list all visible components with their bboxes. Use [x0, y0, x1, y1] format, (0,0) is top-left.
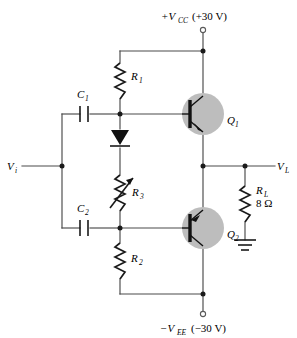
junction-q2-base-node: [118, 226, 123, 231]
vcc-terminal-node: [200, 27, 205, 32]
r3-symbol: R: [131, 186, 139, 198]
schematic-canvas: +V CC (+30 V) −V EE (−30 V) V i V L R 1 …: [0, 0, 297, 338]
r2-symbol: R: [130, 252, 138, 264]
junction-vcc-rail: [201, 49, 206, 54]
resistor-r2: [115, 243, 125, 279]
wiring-layer: [22, 32, 275, 312]
label-layer: +V CC (+30 V) −V EE (−30 V) V i V L R 1 …: [7, 10, 289, 337]
q1-symbol: Q: [227, 114, 235, 126]
q2-symbol: Q: [227, 228, 235, 240]
r2-zigzag: [115, 243, 125, 279]
vcc-subscript: CC: [178, 16, 189, 25]
c2-subscript: 2: [85, 208, 89, 217]
junction-output-node: [201, 164, 206, 169]
r1-subscript: 1: [139, 76, 143, 85]
vee-subscript: EE: [176, 328, 187, 337]
vee-terminal-node: [200, 311, 205, 316]
r3-subscript: 3: [139, 192, 144, 201]
vee-value: (−30 V): [191, 322, 226, 335]
output-subscript: L: [284, 166, 289, 175]
vcc-value: (+30 V): [192, 10, 227, 23]
diode-triangle: [111, 130, 129, 145]
c1-symbol: C: [77, 88, 85, 100]
transistor-q1: [182, 93, 224, 135]
r1-zigzag: [115, 63, 125, 99]
c1-subscript: 1: [85, 94, 89, 103]
junction-input-node: [60, 164, 65, 169]
diode-d1: [110, 130, 130, 146]
r3-adjust-arrow-head: [126, 178, 133, 185]
junction-load-node: [243, 164, 248, 169]
resistor-r3: [110, 175, 133, 211]
input-symbol: V: [7, 160, 15, 172]
junction-vee-rail: [201, 292, 206, 297]
resistor-r1: [115, 63, 125, 99]
r2-subscript: 2: [139, 258, 143, 267]
vcc-symbol: +V: [161, 10, 176, 22]
junction-dots: [60, 49, 248, 297]
q1-subscript: 1: [235, 120, 239, 129]
input-subscript: i: [15, 166, 17, 175]
r3-zigzag: [115, 175, 125, 211]
output-symbol: V: [277, 160, 285, 172]
rl-symbol: R: [255, 184, 263, 196]
q2-subscript: 2: [235, 234, 239, 243]
r1-symbol: R: [130, 70, 138, 82]
transistor-q2: [182, 207, 224, 249]
rl-zigzag: [240, 186, 250, 222]
resistor-rl: [240, 186, 250, 222]
capacitor-c2: [80, 220, 88, 236]
circuit-diagram: +V CC (+30 V) −V EE (−30 V) V i V L R 1 …: [0, 0, 297, 338]
c2-symbol: C: [77, 202, 85, 214]
junction-q1-base-node: [118, 112, 123, 117]
rl-value: 8 Ω: [256, 197, 272, 209]
vee-symbol: −V: [160, 322, 175, 334]
capacitor-c1: [80, 106, 88, 122]
